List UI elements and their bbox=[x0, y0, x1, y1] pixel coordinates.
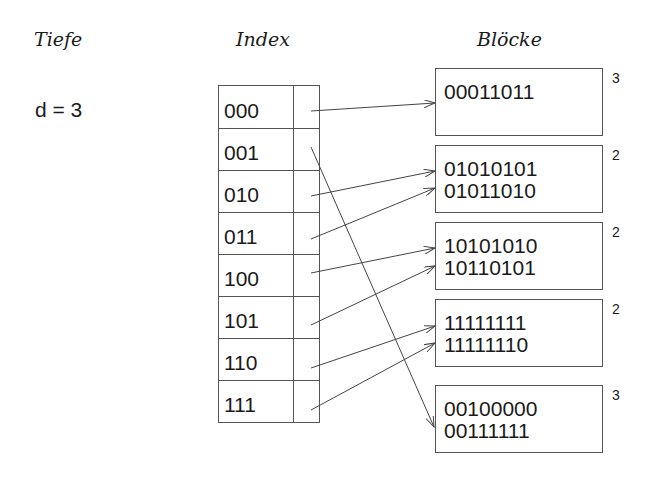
arrow-000 bbox=[311, 103, 435, 111]
arrow-111 bbox=[311, 343, 435, 410]
arrow-010 bbox=[311, 171, 435, 196]
arrow-001 bbox=[311, 147, 434, 427]
arrow-110 bbox=[311, 326, 435, 368]
arrow-011 bbox=[311, 188, 435, 239]
arrow-100 bbox=[311, 248, 435, 273]
arrow-101 bbox=[311, 266, 435, 325]
pointer-arrows bbox=[0, 0, 665, 482]
